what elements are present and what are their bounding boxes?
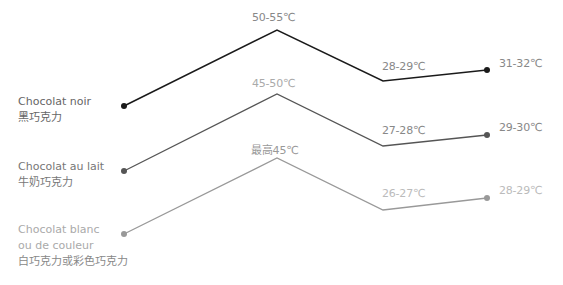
- milk-end-value: 29-30℃: [499, 121, 542, 134]
- dark-label-fr: Chocolat noir: [18, 94, 91, 110]
- milk-valley-value: 27-28℃: [382, 124, 425, 137]
- dark-peak-value: 50-55℃: [252, 11, 295, 24]
- dark-label-zh: 黑巧克力: [18, 110, 91, 126]
- white-end-dot: [484, 195, 490, 201]
- white-label-fr2: ou de couleur: [18, 238, 128, 254]
- milk-peak-value: 45-50℃: [252, 77, 295, 90]
- milk-end-dot: [484, 132, 490, 138]
- dark-end-dot: [484, 67, 490, 73]
- dark-valley-value: 28-29℃: [382, 60, 425, 73]
- white-label-fr: Chocolat blanc: [18, 222, 128, 238]
- milk-label-zh: 牛奶巧克力: [18, 175, 104, 191]
- milk-label-fr: Chocolat au lait: [18, 159, 104, 175]
- dark-start-dot: [121, 103, 127, 109]
- white-label-zh: 白巧克力或彩色巧克力: [18, 254, 128, 270]
- milk-chocolate-line: [124, 94, 487, 171]
- dark-label: Chocolat noir 黑巧克力: [18, 94, 91, 126]
- milk-label: Chocolat au lait 牛奶巧克力: [18, 159, 104, 191]
- dark-chocolate-line: [124, 30, 487, 106]
- white-chocolate-line: [124, 158, 487, 234]
- white-peak-value: 最高45℃: [251, 141, 298, 157]
- white-end-value: 28-29℃: [499, 184, 542, 197]
- milk-start-dot: [121, 168, 127, 174]
- white-label: Chocolat blanc ou de couleur 白巧克力或彩色巧克力: [18, 222, 128, 270]
- dark-end-value: 31-32℃: [499, 57, 542, 70]
- white-valley-value: 26-27℃: [382, 187, 425, 200]
